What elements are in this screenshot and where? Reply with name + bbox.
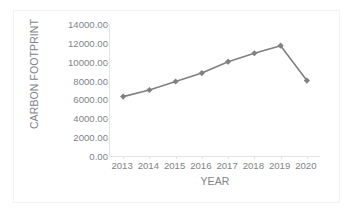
- y-axis-tick-mark: [107, 99, 110, 100]
- x-axis-tick-labels: 20132014201520162017201820192020: [109, 160, 321, 174]
- data-point-marker-2013: [120, 94, 126, 100]
- y-axis-tick-label: 4000.00: [50, 113, 108, 124]
- y-axis-tick-label: 8000.00: [50, 75, 108, 86]
- y-axis-tick-label: 2000.00: [50, 132, 108, 143]
- y-axis-tick-label: 6000.00: [50, 94, 108, 105]
- y-axis-tick-label: 10000.00: [50, 56, 108, 67]
- y-axis-tick-label: 14000.00: [50, 19, 108, 30]
- y-axis-tick-mark: [107, 81, 110, 82]
- y-axis-tick-mark: [107, 62, 110, 63]
- y-axis-tick-mark: [107, 137, 110, 138]
- x-axis-tick-mark: [202, 156, 203, 159]
- x-axis-tick-mark: [123, 156, 124, 159]
- x-axis-tick-label: 2019: [269, 160, 290, 171]
- plot-area: [109, 24, 320, 157]
- x-axis-tick-label: 2020: [295, 160, 316, 171]
- x-axis-tick-label: 2016: [190, 160, 211, 171]
- x-axis-tick-label: 2018: [243, 160, 264, 171]
- data-point-marker-2015: [173, 78, 179, 84]
- x-axis-tick-mark: [228, 156, 229, 159]
- x-axis-tick-mark: [254, 156, 255, 159]
- y-axis-tick-label: 12000.00: [50, 37, 108, 48]
- x-axis-tick-mark: [307, 156, 308, 159]
- y-axis-tick-mark: [107, 24, 110, 25]
- data-point-marker-2017: [225, 59, 231, 65]
- x-axis-tick-mark: [149, 156, 150, 159]
- data-point-marker-2018: [251, 50, 257, 56]
- x-axis-tick-label: 2013: [111, 160, 132, 171]
- x-axis-tick-mark: [176, 156, 177, 159]
- line-series-carbon-footprint: [110, 24, 320, 156]
- y-axis-tick-labels: 14000.0012000.0010000.008000.006000.0040…: [50, 24, 108, 156]
- y-axis-tick-mark: [107, 156, 110, 157]
- x-axis-tick-label: 2015: [164, 160, 185, 171]
- x-axis-title: YEAR: [109, 175, 321, 187]
- y-axis-title: CARBON FOOTPRINT: [28, 10, 42, 138]
- x-axis-tick-mark: [281, 156, 282, 159]
- data-point-marker-2016: [199, 70, 205, 76]
- data-point-marker-2014: [146, 87, 152, 93]
- x-axis-tick-label: 2014: [138, 160, 159, 171]
- x-axis-tick-label: 2017: [216, 160, 237, 171]
- y-axis-tick-label: 0.00: [50, 151, 108, 162]
- chart-figure: CARBON FOOTPRINT 14000.0012000.0010000.0…: [13, 10, 340, 203]
- y-axis-tick-mark: [107, 43, 110, 44]
- y-axis-tick-mark: [107, 118, 110, 119]
